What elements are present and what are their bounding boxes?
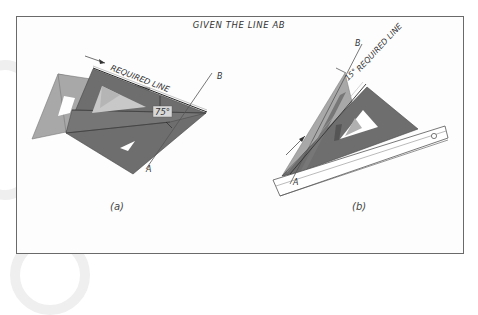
caption-a: (a) <box>110 201 124 212</box>
figure-b: 15° REQUIRED LINE B A <box>273 21 448 196</box>
figure-a: 75° REQUIRED LINE B A <box>32 56 223 174</box>
required-line-label-b: REQUIRED LINE <box>355 21 405 73</box>
point-b-label-a: B <box>217 72 223 81</box>
point-a-label-a: A <box>145 165 151 174</box>
ruler-hole <box>431 133 436 138</box>
point-b-label-b: B <box>355 39 361 48</box>
point-a-label-b: A <box>292 178 298 187</box>
caption-b: (b) <box>352 201 366 212</box>
angle-label-a: 75° <box>155 107 170 117</box>
